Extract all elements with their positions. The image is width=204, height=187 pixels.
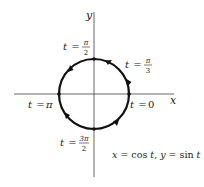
svg-text:π: π <box>145 57 151 65</box>
svg-text:3π: 3π <box>79 135 88 143</box>
label-t-pi-over-3: t = π 3 <box>125 57 152 75</box>
svg-text:π: π <box>45 99 53 110</box>
point-t-pi-over-2 <box>92 57 96 61</box>
svg-text:=: = <box>130 59 145 70</box>
label-t-pi-over-2: t = π 2 <box>63 39 90 57</box>
label-t-pi: t = π <box>28 99 53 110</box>
svg-text:π: π <box>83 39 89 47</box>
svg-text:=: = <box>68 41 83 52</box>
svg-text:2: 2 <box>84 49 88 57</box>
x-axis-label: x <box>170 94 177 107</box>
parametric-circle-diagram: y x t = π 2 t = π 3 t = π <box>0 0 204 187</box>
point-t-pi <box>57 92 61 96</box>
svg-text:=: = <box>65 137 80 148</box>
label-t-0: t = 0 <box>130 99 154 110</box>
point-t-3pi-over-2 <box>92 127 96 131</box>
point-t-0 <box>127 92 131 96</box>
svg-text:2: 2 <box>82 145 86 153</box>
label-t-3pi-over-2: t = 3π 2 <box>60 135 89 153</box>
svg-text:3: 3 <box>146 67 150 75</box>
y-axis-label: y <box>85 9 93 22</box>
parametric-equation: x = cos t, y = sin t <box>112 149 201 160</box>
svg-text:0: 0 <box>148 99 154 110</box>
